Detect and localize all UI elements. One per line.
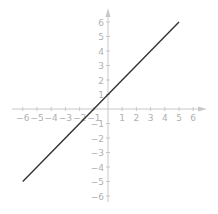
x-tick-label: −3 xyxy=(59,113,72,123)
x-tick-label: −6 xyxy=(16,113,30,123)
x-axis-arrow-icon xyxy=(198,107,207,112)
x-tick-label: −5 xyxy=(30,113,43,123)
x-tick-label: 5 xyxy=(176,113,182,123)
y-tick-label: −3 xyxy=(91,148,104,158)
x-tick-label: 2 xyxy=(134,113,140,123)
x-tick-label: −4 xyxy=(45,113,59,123)
y-tick-label: −5 xyxy=(91,177,104,187)
x-tick-label: 1 xyxy=(119,113,125,123)
y-tick-label: −6 xyxy=(91,192,105,202)
y-tick-label: 5 xyxy=(98,32,104,42)
x-tick-label: 3 xyxy=(148,113,154,123)
y-tick-label: −2 xyxy=(91,134,104,144)
y-tick-label: 3 xyxy=(98,61,104,71)
y-tick-label: 6 xyxy=(98,18,104,28)
y-tick-label: −1 xyxy=(91,119,104,129)
x-tick-label: 4 xyxy=(162,113,168,123)
x-tick-label: 6 xyxy=(190,113,196,123)
y-tick-label: −4 xyxy=(91,163,105,173)
y-tick-label: 2 xyxy=(98,76,104,86)
y-axis-arrow-icon xyxy=(106,8,111,17)
coordinate-plane: −6−5−4−3−2−1123456−6−5−4−3−2−1123456 xyxy=(0,0,218,214)
y-tick-label: 4 xyxy=(98,47,104,57)
